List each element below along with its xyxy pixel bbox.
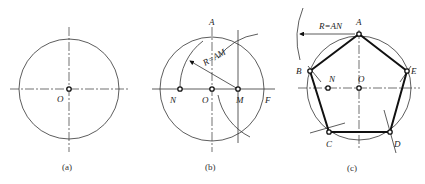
label-o-b: O: [202, 95, 209, 105]
point-a-c: [357, 32, 361, 36]
label-n-c: N: [328, 74, 336, 84]
radius-label-c: R=AN: [318, 21, 343, 31]
label-e-c: E: [410, 66, 417, 76]
panel-a: O (a): [10, 27, 130, 172]
arc-n-from-m: [180, 41, 203, 89]
label-n-b: N: [169, 95, 177, 105]
point-n-b: [178, 87, 182, 91]
label-d-c: D: [393, 139, 401, 149]
caption-a: (a): [62, 162, 72, 172]
arc-bisector: [218, 95, 250, 137]
radius-label-b: R=AM: [200, 47, 228, 69]
radius-line-am: [190, 61, 238, 89]
point-o-a: [67, 87, 71, 91]
panel-c: R=AN A B E C D N O (c): [296, 8, 420, 173]
label-a-c: A: [355, 17, 362, 27]
label-b-c: B: [296, 66, 302, 76]
point-b-c: [308, 69, 312, 73]
point-e-c: [405, 69, 409, 73]
panel-b: R=AM A N O M F (b): [152, 17, 275, 172]
point-m-b: [236, 87, 240, 91]
label-o-c: O: [358, 74, 365, 84]
point-d-c: [388, 130, 392, 134]
label-f-b: F: [264, 95, 271, 105]
point-n-c: [326, 86, 330, 90]
label-m-b: M: [235, 95, 244, 105]
label-a-b: A: [208, 17, 215, 27]
point-o-b: [210, 87, 214, 91]
point-o-c: [357, 86, 361, 90]
label-o-a: O: [57, 94, 64, 104]
pentagon-construction-diagram: O (a) R=AM A N O M F (b) R=AN: [0, 0, 425, 184]
caption-b: (b): [205, 162, 216, 172]
point-c-c: [327, 130, 331, 134]
label-c-c: C: [326, 139, 333, 149]
caption-c: (c): [347, 163, 357, 173]
